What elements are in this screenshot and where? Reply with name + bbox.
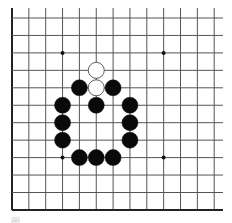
black-stone[interactable] <box>71 150 87 166</box>
board-grid <box>12 8 223 210</box>
black-stone[interactable] <box>122 115 138 131</box>
black-stone[interactable] <box>105 150 121 166</box>
white-stone[interactable] <box>88 80 104 96</box>
black-stone[interactable] <box>71 80 87 96</box>
black-stone[interactable] <box>55 132 71 148</box>
black-stone[interactable] <box>105 80 121 96</box>
white-stone[interactable] <box>88 62 104 78</box>
black-stone[interactable] <box>122 132 138 148</box>
diagram-caption: 图 <box>11 215 21 223</box>
go-board[interactable] <box>0 0 232 223</box>
star-point <box>162 156 166 160</box>
star-point <box>61 156 65 160</box>
black-stone[interactable] <box>55 97 71 113</box>
star-point <box>61 51 65 55</box>
black-stone[interactable] <box>122 97 138 113</box>
black-stone[interactable] <box>55 115 71 131</box>
black-stone[interactable] <box>88 150 104 166</box>
star-point <box>162 51 166 55</box>
black-stone[interactable] <box>88 97 104 113</box>
